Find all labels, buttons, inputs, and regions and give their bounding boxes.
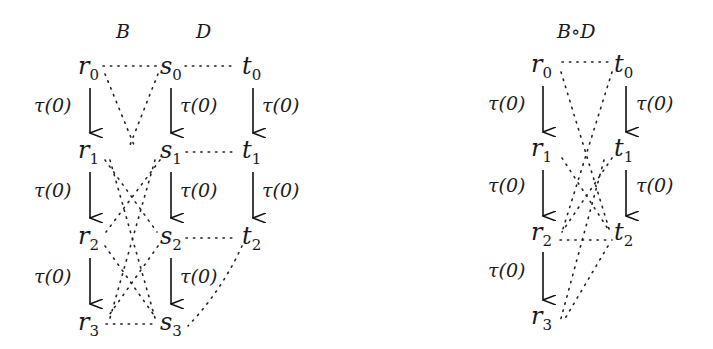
rel-s1-r2 <box>106 160 160 232</box>
node-r2: r2 <box>531 218 552 250</box>
node-r2: r2 <box>78 222 99 254</box>
transition-labels: τ(0) τ(0) τ(0) τ(0) τ(0) τ(0) τ(0) τ(0) <box>34 94 299 287</box>
rel-s1-r3 <box>110 160 155 318</box>
transition-arrows <box>543 86 626 300</box>
title-d: D <box>195 20 211 42</box>
label-tau: τ(0) <box>34 94 71 116</box>
label-tau: τ(0) <box>262 179 299 201</box>
node-s0: s0 <box>160 52 182 84</box>
rel-r0-s1 <box>105 74 134 145</box>
node-t2: t2 <box>614 218 633 250</box>
title-b: B <box>115 20 130 42</box>
rel-t0-r2 <box>562 72 612 232</box>
rel-r1-s2 <box>105 160 157 232</box>
label-tau: τ(0) <box>180 94 217 116</box>
node-r0: r0 <box>531 50 552 82</box>
rel-r2-s3 <box>105 246 156 318</box>
label-tau: τ(0) <box>180 179 217 201</box>
rel-t2-r3 <box>563 246 608 322</box>
rel-t1-r3 <box>560 160 604 322</box>
node-t1: t1 <box>242 136 261 168</box>
rel-t1-r2 <box>562 158 612 232</box>
composition-diagram: B D <box>0 0 713 349</box>
left-diagram: B D <box>34 20 299 340</box>
node-s2: s2 <box>160 222 182 254</box>
rel-s0-r1 <box>130 74 158 145</box>
rel-r0-t2 <box>561 72 610 232</box>
label-tau: τ(0) <box>488 174 525 196</box>
label-tau: τ(0) <box>34 179 71 201</box>
node-r0: r0 <box>78 52 99 84</box>
label-tau: τ(0) <box>488 259 525 281</box>
relation-lines <box>103 66 242 326</box>
node-t2: t2 <box>242 222 261 254</box>
label-tau: τ(0) <box>636 174 673 196</box>
label-tau: τ(0) <box>636 92 673 114</box>
rel-s2-r3 <box>107 246 158 318</box>
node-t0: t0 <box>242 52 261 84</box>
node-r1: r1 <box>531 134 552 166</box>
relation-lines <box>560 62 612 322</box>
state-nodes: r0 r1 r2 r3 s0 s1 s2 s3 t0 t1 t2 <box>78 52 261 340</box>
node-r1: r1 <box>78 136 99 168</box>
node-t1: t1 <box>614 134 633 166</box>
transition-labels: τ(0) τ(0) τ(0) τ(0) τ(0) <box>488 92 673 281</box>
node-r3: r3 <box>78 308 99 340</box>
node-r3: r3 <box>531 302 552 334</box>
title-b-compose-d: B∘D <box>556 20 596 42</box>
state-nodes: r0 r1 r2 r3 t0 t1 t2 <box>531 50 633 334</box>
right-diagram: B∘D τ(0) τ(0) τ(0) τ(0) τ(0) r0 <box>488 20 673 334</box>
node-t0: t0 <box>614 50 633 82</box>
node-s1: s1 <box>160 136 182 168</box>
label-tau: τ(0) <box>262 94 299 116</box>
label-tau: τ(0) <box>180 265 217 287</box>
label-tau: τ(0) <box>488 92 525 114</box>
label-tau: τ(0) <box>34 265 71 287</box>
node-s3: s3 <box>160 308 182 340</box>
